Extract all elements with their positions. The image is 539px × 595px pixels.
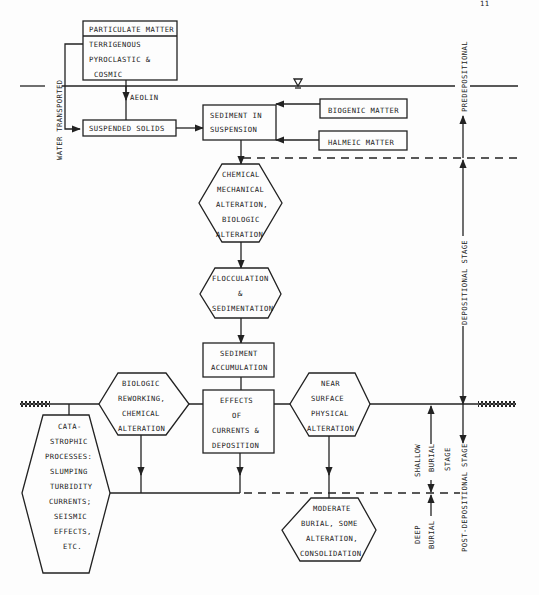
moderate-burial-hexagon: MODERATE BURIAL, SOME ALTERATION, CONSOL…	[282, 498, 376, 561]
svg-text:BIOGENIC MATTER: BIOGENIC MATTER	[328, 106, 399, 115]
svg-text:REWORKING,: REWORKING,	[118, 394, 165, 403]
svg-text:SUSPENDED SOLIDS: SUSPENDED SOLIDS	[89, 124, 165, 133]
particulate-matter-box: PARTICULATE MATTER TERRIGENOUS PYROCLAST…	[83, 21, 177, 80]
sediment-flow-diagram: 11 PARTICULATE MATTER TERRIGENOUS PYROCL…	[0, 0, 539, 595]
near-surface-hexagon: NEAR SURFACE PHYSICAL ALTERATION	[290, 373, 370, 436]
svg-text:&: &	[238, 289, 243, 298]
halmeic-matter-box: HALMEIC MATTER	[319, 131, 407, 150]
water-transported-label: WATER TRANSPORTED	[55, 80, 64, 160]
svg-text:BIOLOGIC: BIOLOGIC	[122, 379, 160, 388]
svg-text:BIOLOGIC: BIOLOGIC	[222, 215, 260, 224]
svg-text:TURBIDITY: TURBIDITY	[50, 482, 93, 491]
svg-text:HALMEIC MATTER: HALMEIC MATTER	[328, 138, 394, 147]
svg-text:ALTERATION,: ALTERATION,	[306, 534, 358, 543]
biogenic-matter-box: BIOGENIC MATTER	[320, 99, 407, 118]
svg-text:CURRENTS;: CURRENTS;	[49, 497, 92, 506]
flocculation-hexagon: FLOCCULATION & SEDIMENTATION	[200, 268, 281, 318]
svg-text:ALTERATION: ALTERATION	[216, 230, 263, 239]
shallow-label: SHALLOW	[413, 444, 422, 477]
depositional-stage-label: DEPOSITIONAL STAGE	[460, 240, 469, 325]
aeolin-label: AEOLIN	[130, 93, 158, 102]
svg-text:PROCESSES:: PROCESSES:	[45, 452, 92, 461]
water-level-icon	[294, 79, 302, 86]
svg-text:SEDIMENT: SEDIMENT	[220, 349, 258, 358]
svg-text:CURRENTS &: CURRENTS &	[212, 426, 260, 435]
sediment-accumulation-box: SEDIMENT ACCUMULATION	[203, 343, 274, 377]
svg-text:ETC.: ETC.	[63, 542, 82, 551]
sediment-hatch-left	[20, 401, 50, 407]
shallow-burial-label: BURIAL	[427, 444, 436, 472]
svg-text:DEPOSITION: DEPOSITION	[212, 441, 259, 450]
deep-label: DEEP	[413, 525, 422, 544]
svg-text:CONSOLIDATION: CONSOLIDATION	[300, 549, 361, 558]
svg-text:OF: OF	[232, 411, 241, 420]
svg-text:ALTERATION,: ALTERATION,	[216, 200, 268, 209]
svg-text:COSMIC: COSMIC	[94, 70, 122, 79]
svg-text:BURIAL, SOME: BURIAL, SOME	[301, 519, 358, 528]
svg-text:PHYSICAL: PHYSICAL	[311, 409, 349, 418]
svg-text:NEAR: NEAR	[321, 379, 340, 388]
svg-text:SEDIMENTATION: SEDIMENTATION	[212, 304, 273, 313]
svg-text:FLOCCULATION: FLOCCULATION	[212, 274, 269, 283]
deep-burial-label: BURIAL	[427, 521, 436, 549]
suspended-solids-box: SUSPENDED SOLIDS	[83, 120, 176, 136]
svg-text:SUSPENSION: SUSPENSION	[210, 125, 257, 134]
svg-text:ALTERATION: ALTERATION	[118, 424, 165, 433]
svg-text:CATA-: CATA-	[58, 422, 82, 431]
sediment-in-suspension-box: SEDIMENT IN SUSPENSION	[203, 105, 276, 140]
post-depositional-label: POST-DEPOSITIONAL STAGE	[460, 443, 469, 552]
sediment-hatch-right	[478, 401, 516, 407]
svg-text:EFFECTS: EFFECTS	[220, 396, 253, 405]
svg-text:PYROCLASTIC &: PYROCLASTIC &	[89, 55, 151, 64]
svg-text:EFFECTS,: EFFECTS,	[54, 527, 92, 536]
chemical-alteration-hexagon: CHEMICAL MECHANICAL ALTERATION, BIOLOGIC…	[199, 164, 282, 242]
svg-text:SEISMIC: SEISMIC	[54, 512, 87, 521]
effects-of-currents-box: EFFECTS OF CURRENTS & DEPOSITION	[203, 390, 274, 453]
svg-text:ACCUMULATION: ACCUMULATION	[211, 363, 268, 372]
svg-text:CHEMICAL: CHEMICAL	[222, 170, 260, 179]
page-number: 11	[480, 0, 489, 8]
svg-text:SURFACE: SURFACE	[311, 394, 344, 403]
svg-text:MECHANICAL: MECHANICAL	[217, 185, 264, 194]
predepositional-label: PREDEPOSITIONAL	[460, 41, 469, 112]
svg-text:CHEMICAL: CHEMICAL	[122, 409, 160, 418]
biologic-reworking-hexagon: BIOLOGIC REWORKING, CHEMICAL ALTERATION	[99, 373, 189, 435]
shallow-stage-label: STAGE	[443, 447, 452, 471]
svg-text:SEDIMENT IN: SEDIMENT IN	[210, 111, 262, 120]
svg-text:TERRIGENOUS: TERRIGENOUS	[89, 40, 141, 49]
particulate-matter-title: PARTICULATE MATTER	[89, 25, 174, 34]
svg-text:STROPHIC: STROPHIC	[50, 437, 88, 446]
svg-text:ALTERATION: ALTERATION	[307, 424, 354, 433]
svg-text:MODERATE: MODERATE	[313, 504, 351, 513]
svg-text:SLUMPING: SLUMPING	[50, 467, 88, 476]
catastrophic-processes-hexagon: CATA- STROPHIC PROCESSES: SLUMPING TURBI…	[22, 415, 110, 573]
